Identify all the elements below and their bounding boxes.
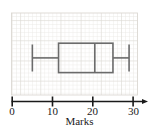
box-plot-figure: 0 10 20 30 Marks [0, 0, 159, 133]
x-axis-title: Marks [0, 115, 159, 127]
